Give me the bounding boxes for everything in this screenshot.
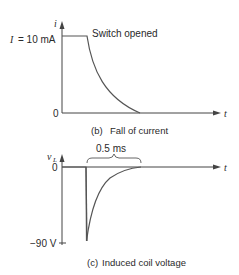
figure-c-caption-text: Induced coil voltage (102, 257, 186, 268)
figure-c-induced-coil-voltage: 0.5 ms v L 0 −90 V t (c) Induced coil vo… (30, 143, 227, 268)
figure-b-caption-letter: (b) (91, 125, 103, 136)
figure-b-x-axis-arrow-icon (213, 111, 221, 116)
figure-c-interval-brace (87, 154, 141, 163)
figure-b-level-label-value: = 10 mA (18, 34, 56, 45)
figure-c-interval-label: 0.5 ms (96, 143, 126, 154)
figure-b-caption-text: Fall of current (110, 125, 168, 136)
figure-b-y-axis-label: i (54, 18, 57, 29)
figure-b-current-curve (62, 36, 140, 113)
figure-c-x-axis-label: t (224, 162, 227, 173)
figure-c-y-axis-label-main: v (47, 151, 52, 162)
figure-b-level-label-var: I (9, 34, 14, 45)
figure-c-voltage-curve (62, 167, 141, 241)
figure-canvas: i I = 10 mA Switch opened 0 t (b) Fall o… (0, 0, 239, 275)
figure-c-x-axis-arrow-icon (213, 165, 221, 170)
figure-b-zero-label: 0 (53, 108, 59, 119)
figure-c-min-label: −90 V (30, 238, 57, 249)
figure-b-y-axis-arrow-icon (60, 21, 65, 29)
figure-b-x-axis-label: t (224, 108, 227, 119)
figure-c-zero-label: 0 (52, 162, 58, 173)
figure-b-annotation: Switch opened (92, 28, 158, 39)
figure-c-y-axis-arrow-icon (60, 154, 65, 162)
figure-b-fall-of-current: i I = 10 mA Switch opened 0 t (b) Fall o… (9, 18, 227, 136)
figure-c-caption-letter: (c) (87, 257, 98, 268)
